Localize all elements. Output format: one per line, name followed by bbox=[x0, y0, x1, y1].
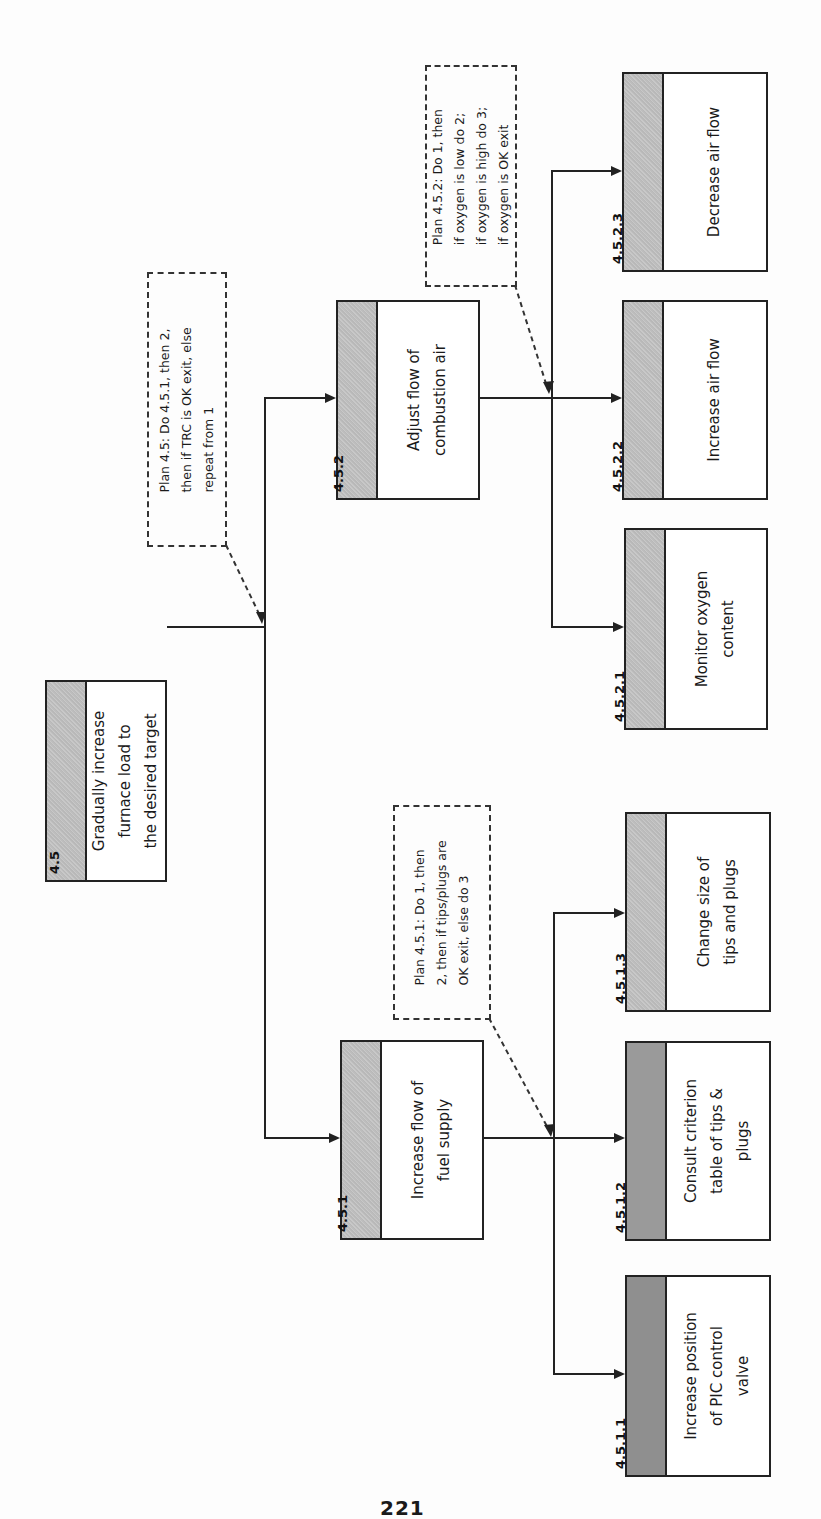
arrow-icon bbox=[329, 1133, 340, 1143]
connector-4-5-2-2 bbox=[551, 397, 611, 399]
task-id: 4.5.1 bbox=[335, 1195, 350, 1232]
connector-4-5-1-out bbox=[484, 1137, 554, 1139]
connector-4-5-2-1 bbox=[551, 626, 613, 628]
task-id-header: 4.5.1.3 bbox=[627, 814, 667, 1010]
task-id-header: 4.5.2.3 bbox=[624, 74, 664, 270]
bus-4-5-2 bbox=[551, 170, 553, 628]
connector-4-5-1-1 bbox=[553, 1373, 615, 1375]
arrow-icon bbox=[614, 1133, 625, 1143]
plan-4-5-2-box: Plan 4.5.2: Do 1, then if oxygen is low … bbox=[425, 65, 517, 287]
task-id: 4.5.1.3 bbox=[613, 953, 628, 1004]
task-label: Change size of tips and plugs bbox=[665, 814, 769, 1010]
connector-4-5-2-3 bbox=[551, 170, 611, 172]
task-id: 4.5.2 bbox=[331, 455, 346, 492]
task-id-header: 4.5.2.2 bbox=[624, 302, 664, 498]
task-id-header: 4.5.1.1 bbox=[627, 1277, 667, 1475]
task-id: 4.5.2.1 bbox=[612, 671, 627, 722]
trunk-4-5 bbox=[264, 397, 266, 1139]
task-node-4-5-1: 4.5.1 Increase flow of fuel supply bbox=[340, 1040, 484, 1240]
task-label: Adjust flow of combustion air bbox=[376, 302, 478, 498]
task-id: 4.5.1.1 bbox=[613, 1418, 628, 1469]
task-label: Decrease air flow bbox=[662, 74, 766, 270]
task-id-header: 4.5.2 bbox=[338, 302, 378, 498]
task-label: Gradually increase furnace load to the d… bbox=[85, 682, 165, 880]
task-label: Consult criterion table of tips & plugs bbox=[665, 1043, 769, 1239]
connector-4-5-1-3 bbox=[553, 912, 615, 914]
task-id: 4.5.2.3 bbox=[610, 213, 625, 264]
arrow-icon bbox=[611, 393, 622, 403]
connector-root bbox=[167, 626, 265, 628]
connector-4-5-2 bbox=[264, 397, 326, 399]
page-number: 221 bbox=[380, 1496, 425, 1519]
task-node-4-5-2-2: 4.5.2.2 Increase air flow bbox=[622, 300, 768, 500]
task-id-header: 4.5.1 bbox=[342, 1042, 382, 1238]
task-label: Monitor oxygen content bbox=[664, 530, 766, 728]
task-id: 4.5 bbox=[47, 851, 62, 874]
arrow-icon bbox=[613, 622, 624, 632]
task-label: Increase air flow bbox=[662, 302, 766, 498]
task-id: 4.5.2.2 bbox=[610, 441, 625, 492]
connector-4-5-1 bbox=[264, 1137, 330, 1139]
task-node-4-5-1-2: 4.5.1.2 Consult criterion table of tips … bbox=[625, 1041, 771, 1241]
plan-4-5-box: Plan 4.5: Do 4.5.1, then 2, then if TRC … bbox=[147, 272, 227, 547]
arrow-icon bbox=[614, 1369, 625, 1379]
bus-4-5-1 bbox=[553, 912, 555, 1375]
task-label: Increase flow of fuel supply bbox=[380, 1042, 482, 1238]
task-node-4-5-2-3: 4.5.2.3 Decrease air flow bbox=[622, 72, 768, 272]
task-node-4-5-2-1: 4.5.2.1 Monitor oxygen content bbox=[624, 528, 768, 730]
task-label: Increase position of PIC control valve bbox=[665, 1277, 769, 1475]
arrow-icon bbox=[614, 908, 625, 918]
task-id-header: 4.5.1.2 bbox=[627, 1043, 667, 1239]
connector-4-5-1-2 bbox=[553, 1137, 615, 1139]
task-id-header: 4.5.2.1 bbox=[626, 530, 666, 728]
task-id: 4.5.1.2 bbox=[613, 1182, 628, 1233]
connector-4-5-2-out bbox=[480, 397, 552, 399]
arrow-icon bbox=[611, 166, 622, 176]
task-node-4-5-2: 4.5.2 Adjust flow of combustion air bbox=[336, 300, 480, 500]
plan-4-5-1-box: Plan 4.5.1: Do 1, then 2, then if tips/p… bbox=[393, 805, 491, 1020]
arrow-icon bbox=[325, 393, 336, 403]
task-node-4-5-1-1: 4.5.1.1 Increase position of PIC control… bbox=[625, 1275, 771, 1477]
task-id-header: 4.5 bbox=[47, 682, 87, 880]
task-node-4-5-1-3: 4.5.1.3 Change size of tips and plugs bbox=[625, 812, 771, 1012]
task-node-4-5: 4.5 Gradually increase furnace load to t… bbox=[45, 680, 167, 882]
